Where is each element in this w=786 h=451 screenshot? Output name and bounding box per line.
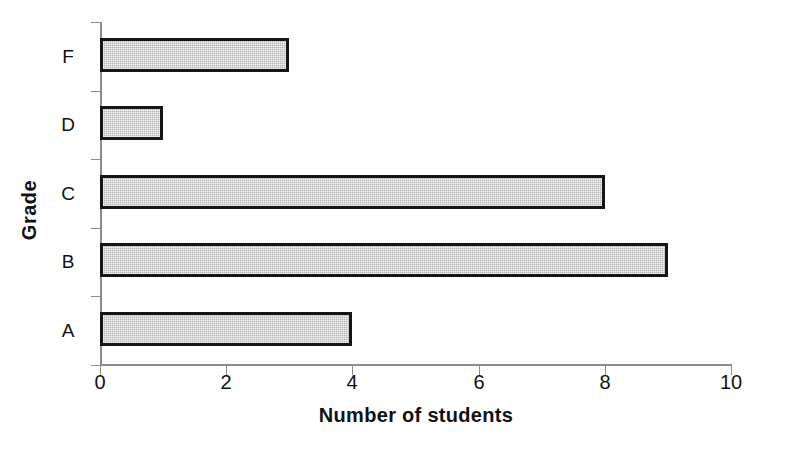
- bar-c: [100, 175, 605, 209]
- y-axis-label-b: B: [48, 251, 88, 273]
- y-axis-label-a: A: [48, 320, 88, 342]
- y-axis-label-f: F: [48, 46, 88, 68]
- y-axis-tick: [91, 296, 100, 297]
- bar-chart: Grade F D C B A 0 2 4 6 8 10 Number of s…: [0, 0, 786, 451]
- y-axis-title: Grade: [14, 140, 44, 280]
- x-tick-label-2: 2: [201, 371, 251, 394]
- x-axis-title: Number of students: [100, 404, 732, 427]
- x-tick-label-4: 4: [327, 371, 377, 394]
- y-axis-tick: [91, 22, 100, 23]
- bar-f: [100, 38, 289, 72]
- bar-b: [100, 243, 668, 277]
- x-tick-label-8: 8: [580, 371, 630, 394]
- y-axis-tick: [91, 91, 100, 92]
- x-tick-label-0: 0: [75, 371, 125, 394]
- x-axis-line: [100, 364, 732, 366]
- y-axis-tick: [91, 365, 100, 366]
- x-tick-label-6: 6: [454, 371, 504, 394]
- y-axis-tick: [91, 159, 100, 160]
- x-tick-label-10: 10: [706, 371, 756, 394]
- bar-d: [100, 106, 163, 140]
- y-axis-label-c: C: [48, 183, 88, 205]
- y-axis-label-d: D: [48, 114, 88, 136]
- bar-a: [100, 312, 352, 346]
- y-axis-tick: [91, 228, 100, 229]
